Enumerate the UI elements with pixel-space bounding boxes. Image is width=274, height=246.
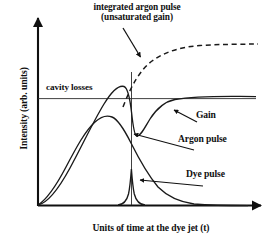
dye-pulse-label: Dye pulse (186, 169, 225, 180)
integrated-argon-pulse-line-1: integrated argon pulse (62, 2, 212, 12)
integrated-argon-pulse-line-2: (unsaturated gain) (62, 12, 212, 22)
integrated-argon-pulse-annotation: integrated argon pulse (unsaturated gain… (62, 2, 212, 23)
argon-pulse-label: Argon pulse (178, 134, 227, 145)
figure-background (0, 0, 274, 246)
plot-canvas (0, 0, 274, 246)
y-axis-label: Intensity (arb. units) (19, 38, 30, 178)
cavity-losses-label: cavity losses (46, 82, 92, 92)
figure-root: integrated argon pulse (unsaturated gain… (0, 0, 274, 246)
x-axis-label: Units of time at the dye jet (t) (46, 223, 256, 234)
gain-label: Gain (196, 110, 216, 121)
